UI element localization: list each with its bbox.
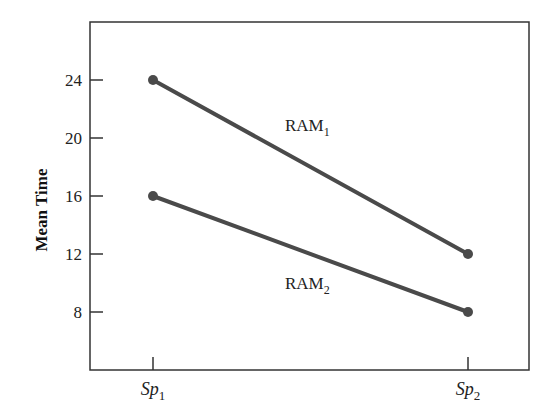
interaction-plot: 24 20 16 12 8 Mean Time Sp1 Sp2 <box>0 0 556 419</box>
y-tick-label: 12 <box>65 245 82 264</box>
y-tick: 12 <box>65 245 103 264</box>
x-tick-label-sp1: Sp1 <box>141 379 166 403</box>
y-tick: 16 <box>65 187 103 206</box>
y-tick: 20 <box>65 129 103 148</box>
y-axis-title: Mean Time <box>32 168 51 251</box>
y-axis: 24 20 16 12 8 <box>65 71 103 322</box>
series-label-ram1: RAM1 <box>285 116 330 139</box>
data-point <box>463 249 473 259</box>
y-tick-label: 8 <box>74 303 83 322</box>
x-tick-label-sp2: Sp2 <box>456 379 481 403</box>
series-line <box>153 196 468 312</box>
y-tick: 8 <box>74 303 104 322</box>
data-point <box>463 307 473 317</box>
series-label-ram2: RAM2 <box>285 274 330 297</box>
y-tick: 24 <box>65 71 103 90</box>
y-tick-label: 16 <box>65 187 82 206</box>
series-ram2 <box>148 191 473 317</box>
data-point <box>148 75 158 85</box>
y-tick-label: 24 <box>65 71 83 90</box>
series-line <box>153 80 468 254</box>
data-point <box>148 191 158 201</box>
series-ram1 <box>148 75 473 259</box>
x-axis: Sp1 Sp2 <box>141 357 481 403</box>
y-tick-label: 20 <box>65 129 82 148</box>
